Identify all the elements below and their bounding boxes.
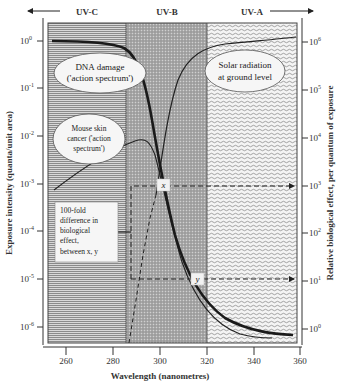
y-right-label: Relative biological effect, per quantum … [325, 86, 335, 281]
left-axis: 100 10-1 10-2 10-3 10-4 10-5 10-6 Exposu… [4, 18, 43, 345]
svg-text:biological: biological [60, 226, 90, 235]
y-left-tick-0: 100 [20, 35, 32, 46]
x-tick-320: 320 [200, 356, 214, 366]
y-right-tick-1: 101 [309, 275, 321, 286]
band-label-uvb: UV-B [156, 7, 177, 17]
svg-text:effect,: effect, [60, 236, 79, 245]
svg-text:100-fold: 100-fold [60, 206, 86, 215]
y-left-tick-5: 10-5 [20, 273, 34, 284]
svg-text:('action spectrum'): ('action spectrum') [67, 73, 133, 83]
y-left-tick-6: 10-6 [20, 321, 34, 332]
marker-y: y [191, 273, 204, 285]
marker-x: x [157, 179, 170, 191]
y-left-tick-3: 10-3 [20, 178, 34, 189]
svg-text:cancer ('action: cancer ('action [67, 134, 111, 143]
y-right-tick-6: 106 [309, 36, 321, 47]
x-axis: 260 280 300 320 340 360 Wavelength (nano… [43, 347, 307, 381]
hundred-fold-label: 100-fold difference in biological effect… [55, 202, 118, 262]
dna-damage-label: DNA damage ('action spectrum') [54, 53, 146, 93]
band-label-uva: UV-A [241, 7, 263, 17]
svg-text:between x, y: between x, y [60, 247, 98, 256]
solar-radiation-label: Solar radiation at ground level [205, 50, 285, 92]
band-label-uvc: UV-C [76, 7, 98, 17]
right-axis: 106 105 104 103 102 101 100 Relative bio… [302, 18, 335, 345]
x-tick-260: 260 [59, 356, 73, 366]
y-right-tick-2: 102 [309, 227, 321, 238]
svg-text:at ground level: at ground level [218, 72, 272, 82]
y-left-tick-1: 10-1 [20, 82, 34, 93]
svg-text:DNA damage: DNA damage [75, 62, 124, 72]
band-header: UV-C UV-B UV-A [28, 7, 313, 17]
x-axis-label: Wavelength (nanometres) [111, 371, 210, 381]
x-tick-300: 300 [153, 356, 167, 366]
y-left-label: Exposure intensity (quanta/unit area) [4, 111, 14, 255]
y-right-tick-3: 103 [309, 180, 321, 191]
svg-text:Solar radiation: Solar radiation [218, 60, 272, 70]
svg-text:x: x [161, 180, 166, 190]
chart: UV-C UV-B UV-A 100 10-1 10-2 10-3 10-4 1… [0, 0, 339, 387]
svg-text:Mouse skin: Mouse skin [72, 124, 107, 133]
y-left-tick-2: 10-2 [20, 130, 34, 141]
svg-text:spectrum'): spectrum') [73, 144, 105, 153]
x-tick-280: 280 [106, 356, 120, 366]
x-tick-360: 360 [293, 356, 307, 366]
y-left-tick-4: 10-4 [20, 225, 34, 236]
y-right-tick-0: 100 [309, 323, 321, 334]
x-tick-340: 340 [247, 356, 261, 366]
svg-text:difference in: difference in [60, 216, 98, 225]
mouse-skin-cancer-label: Mouse skin cancer ('action spectrum') [53, 114, 125, 164]
y-right-tick-5: 105 [309, 84, 321, 95]
y-right-tick-4: 104 [309, 132, 321, 143]
svg-text:y: y [195, 274, 200, 284]
